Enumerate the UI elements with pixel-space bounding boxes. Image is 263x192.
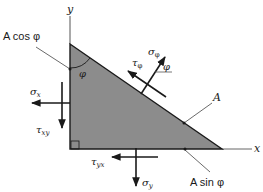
hypotenuse-dot	[183, 122, 186, 125]
x-axis-label: x	[254, 142, 261, 155]
bottom-face-label: A sin φ	[190, 176, 224, 188]
hypotenuse-leader	[184, 103, 212, 123]
y-axis-label: y	[66, 3, 74, 16]
tau-yx-label: τyx	[91, 156, 105, 169]
sigma-phi-label: σφ	[148, 46, 160, 59]
hypotenuse-label: A	[212, 91, 221, 104]
bottom-face-dot	[184, 148, 187, 151]
tau-xy-label: τxy	[36, 124, 50, 137]
vertical-face-label: A cos φ	[3, 30, 40, 42]
normal-angle-label: φ	[163, 61, 170, 72]
wedge-triangle	[70, 44, 222, 149]
vertical-face-dot	[69, 68, 72, 71]
tau-phi-label: τφ	[132, 57, 143, 70]
wedge-angle-label: φ	[79, 68, 86, 79]
stress-wedge-diagram: y x φ A cos φ A A sin φ φ σφ	[0, 0, 263, 192]
diagram-canvas: y x φ A cos φ A A sin φ φ σφ	[0, 0, 263, 192]
bottom-face-leader	[185, 150, 210, 172]
sigma-x-label: σx	[30, 86, 41, 99]
vertical-face-leader	[36, 47, 70, 69]
sigma-y-label: σy	[142, 177, 154, 190]
